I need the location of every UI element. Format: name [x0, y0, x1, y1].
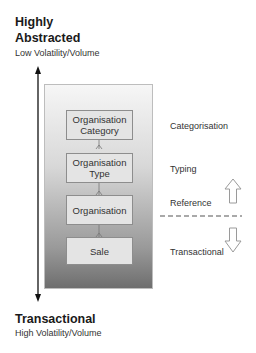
entity-label-line1: Sale [90, 246, 109, 257]
hollow-up-arrow-icon [225, 179, 241, 203]
entity-label-line1: Organisation [73, 114, 127, 125]
entity-organisation-type: Organisation Type [66, 153, 133, 183]
entity-label-line2: Type [73, 168, 127, 179]
axis-arrowhead-down-icon [35, 294, 41, 302]
bottom-subtitle: High Volatility/Volume [15, 328, 102, 338]
bottom-title: Transactional [15, 311, 96, 327]
entity-organisation: Organisation [66, 195, 133, 225]
entity-label-line1: Organisation [73, 157, 127, 168]
vertical-axis-arrow [35, 66, 41, 302]
entity-organisation-category: Organisation Category [66, 110, 133, 140]
label-transactional: Transactional [170, 247, 224, 257]
hollow-down-arrow-icon [225, 228, 241, 252]
entity-label-line2: Category [73, 125, 127, 136]
entity-sale: Sale [66, 237, 133, 265]
entity-label-line1: Organisation [73, 205, 127, 216]
axis-arrowhead-up-icon [35, 66, 41, 74]
label-categorisation: Categorisation [170, 121, 228, 131]
label-typing: Typing [170, 164, 197, 174]
label-reference: Reference [170, 198, 212, 208]
